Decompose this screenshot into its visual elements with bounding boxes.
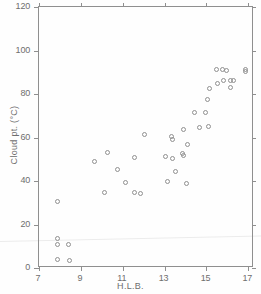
data-point [55, 236, 60, 241]
data-point [206, 124, 211, 129]
y-axis-tick-right [252, 225, 256, 226]
x-axis-tick-label: 7 [36, 274, 41, 283]
data-point [132, 190, 137, 195]
data-point [66, 242, 71, 247]
data-point [215, 81, 220, 86]
x-axis-tick [206, 266, 207, 271]
data-point [55, 242, 60, 247]
y-axis-tick-right [252, 7, 256, 8]
x-axis-tick [81, 266, 82, 271]
data-point [115, 167, 120, 172]
data-point [170, 156, 175, 161]
x-axis-tick [248, 266, 249, 271]
scatter-plot-figure: Cloud pt. (°C) H.L.B. 020406080100120791… [0, 0, 261, 294]
x-axis-tick-top [39, 3, 40, 7]
data-point [228, 85, 233, 90]
x-axis-tick-top [165, 3, 166, 7]
data-point [243, 69, 248, 74]
plot-area [38, 6, 253, 267]
data-point [55, 199, 60, 204]
data-point [214, 67, 219, 72]
y-axis-tick-right [252, 51, 256, 52]
data-point [142, 132, 147, 137]
data-point [105, 150, 110, 155]
y-axis-tick [34, 138, 39, 139]
data-point [181, 153, 186, 158]
x-axis-tick-label: 15 [201, 274, 211, 283]
data-point [203, 110, 208, 115]
data-point [67, 258, 72, 263]
y-axis-tick [34, 225, 39, 226]
y-axis-tick [34, 181, 39, 182]
data-point [165, 179, 170, 184]
y-axis-tick-label: 40 [0, 176, 30, 185]
y-axis-tick-right [252, 138, 256, 139]
x-axis-tick-top [206, 3, 207, 7]
data-point [224, 68, 229, 73]
y-axis-tick-right [252, 181, 256, 182]
y-axis-tick-label: 20 [0, 219, 30, 228]
data-point [163, 154, 168, 159]
y-axis-tick [34, 94, 39, 95]
x-axis-tick-top [248, 3, 249, 7]
y-axis-tick-label: 60 [0, 132, 30, 141]
data-point [102, 190, 107, 195]
data-point [92, 159, 97, 164]
data-point [184, 181, 189, 186]
data-point [138, 191, 143, 196]
data-point [55, 257, 60, 262]
data-point [181, 127, 186, 132]
data-point [197, 125, 202, 130]
data-point [173, 169, 178, 174]
y-axis-tick-label: 100 [0, 45, 30, 54]
x-axis-tick [123, 266, 124, 271]
data-point [185, 142, 190, 147]
data-point [132, 155, 137, 160]
y-axis-tick [34, 7, 39, 8]
y-axis-tick-label: 0 [0, 263, 30, 272]
x-axis-tick-label: 9 [77, 274, 82, 283]
y-axis-tick-label: 80 [0, 89, 30, 98]
data-point [231, 78, 236, 83]
x-axis-tick-label: 17 [243, 274, 253, 283]
data-point [207, 86, 212, 91]
y-axis-tick-right [252, 268, 256, 269]
data-point [221, 78, 226, 83]
data-point [123, 180, 128, 185]
data-point [205, 97, 210, 102]
data-point [192, 110, 197, 115]
x-axis-tick-top [81, 3, 82, 7]
x-axis-tick-label: 13 [159, 274, 169, 283]
y-axis-tick-label: 120 [0, 2, 30, 11]
y-axis-tick [34, 51, 39, 52]
x-axis-tick [165, 266, 166, 271]
x-axis-tick-label: 11 [117, 274, 126, 283]
y-axis-tick-right [252, 94, 256, 95]
x-axis-tick [39, 266, 40, 271]
x-axis-tick-top [123, 3, 124, 7]
data-point [170, 137, 175, 142]
